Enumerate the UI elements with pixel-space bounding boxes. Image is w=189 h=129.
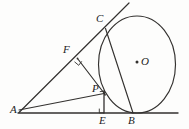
segment-tangent-ac bbox=[19, 3, 129, 113]
point-label-f: F bbox=[63, 44, 70, 55]
point-label-o: O bbox=[141, 56, 149, 67]
vertex-dot-f bbox=[77, 58, 79, 60]
circle-o bbox=[99, 16, 176, 113]
point-label-e: E bbox=[99, 115, 106, 126]
geometry-canvas bbox=[0, 0, 189, 129]
segment-chord-cb bbox=[106, 29, 134, 114]
right-angle-mark-e bbox=[99, 109, 104, 113]
segment-ap bbox=[19, 94, 104, 111]
center-dot-o bbox=[136, 61, 139, 64]
point-label-p: P bbox=[92, 83, 99, 94]
point-label-c: C bbox=[96, 13, 103, 24]
point-label-b: B bbox=[128, 115, 135, 126]
point-label-a: A bbox=[10, 104, 17, 115]
geometry-figure: A C O F P E B bbox=[0, 0, 189, 129]
